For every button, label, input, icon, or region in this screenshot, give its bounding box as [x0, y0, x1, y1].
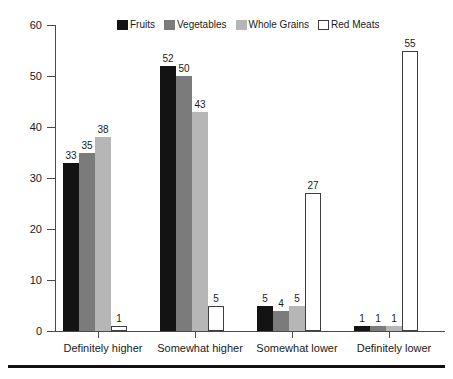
bar-value-label: 52: [155, 54, 181, 64]
y-axis-tick: [47, 178, 55, 179]
bar-red-meats-somewhat-lower: [305, 193, 321, 331]
y-axis-tick-label: 40: [6, 122, 42, 133]
y-axis-tick: [47, 229, 55, 230]
y-axis-tick-label: 20: [6, 224, 42, 235]
y-axis-tick: [47, 331, 55, 332]
bar-value-label: 1: [106, 314, 132, 324]
bar-vegetables-somewhat-lower: [273, 311, 289, 331]
bar-value-label: 5: [203, 294, 229, 304]
y-axis-tick: [47, 127, 55, 128]
x-axis-category-label: Somewhat lower: [242, 342, 352, 354]
y-axis-tick: [47, 280, 55, 281]
bar-value-label: 38: [90, 125, 116, 135]
y-axis-tick-label: 0: [6, 326, 42, 337]
bar-red-meats-definitely-higher: [111, 326, 127, 331]
y-axis-tick-label: 50: [6, 71, 42, 82]
x-axis-category-label: Definitely higher: [48, 342, 158, 354]
bar-whole-grains-somewhat-lower: [289, 306, 305, 332]
y-axis-tick-label: 60: [6, 20, 42, 31]
bar-vegetables-definitely-higher: [79, 153, 95, 332]
bar-fruits-definitely-lower: [354, 326, 370, 331]
bar-fruits-definitely-higher: [63, 163, 79, 331]
bar-vegetables-definitely-lower: [370, 326, 386, 331]
x-axis-category-label: Definitely lower: [339, 342, 449, 354]
bar-vegetables-somewhat-higher: [176, 76, 192, 331]
y-axis-tick: [47, 76, 55, 77]
plot-area: 333538152504355452711155: [55, 25, 445, 331]
bar-red-meats-somewhat-higher: [208, 306, 224, 332]
y-axis-tick-label: 30: [6, 173, 42, 184]
bottom-divider-rule: [8, 365, 445, 368]
bar-fruits-somewhat-lower: [257, 306, 273, 332]
bar-value-label: 55: [397, 39, 423, 49]
x-axis-line: [55, 331, 445, 332]
x-axis-tick: [389, 331, 390, 338]
x-axis-tick: [98, 331, 99, 338]
bar-whole-grains-definitely-higher: [95, 137, 111, 331]
bar-value-label: 50: [171, 64, 197, 74]
bar-red-meats-definitely-lower: [402, 51, 418, 332]
x-axis-tick: [195, 331, 196, 338]
y-axis-tick-label: 10: [6, 275, 42, 286]
x-axis-category-label: Somewhat higher: [145, 342, 255, 354]
bar-chart: 0102030405060 FruitsVegetablesWhole Grai…: [0, 0, 453, 379]
x-axis-tick: [292, 331, 293, 338]
y-axis-tick: [47, 25, 55, 26]
bar-fruits-somewhat-higher: [160, 66, 176, 331]
bar-value-label: 43: [187, 100, 213, 110]
bar-value-label: 27: [300, 181, 326, 191]
